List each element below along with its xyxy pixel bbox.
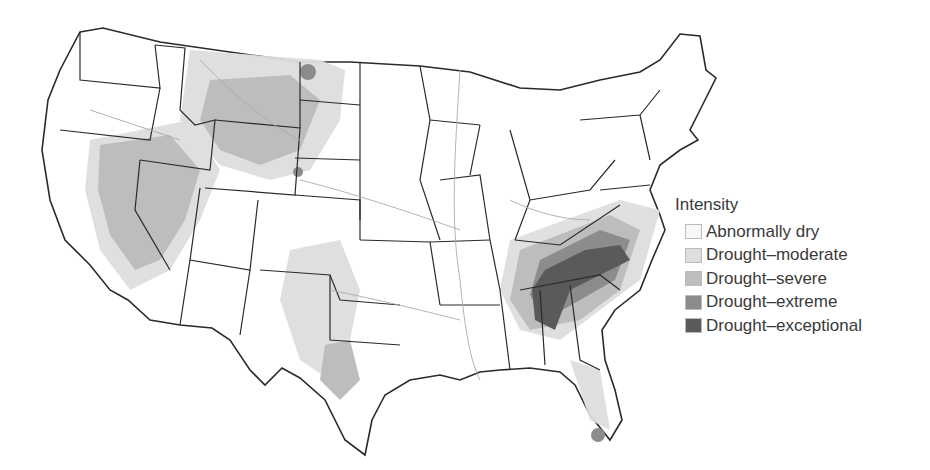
legend-item-drought-exceptional: Drought–exceptional [685,314,862,338]
legend-item-drought-moderate: Drought–moderate [685,244,862,268]
swatch-drought-exceptional [685,318,702,333]
legend-label: Drought–exceptional [706,316,862,336]
swatch-drought-severe [685,271,702,286]
legend-item-drought-severe: Drought–severe [685,267,862,291]
legend: Intensity Abnormally dry Drought–moderat… [675,195,862,338]
legend-label: Drought–extreme [706,292,837,312]
swatch-drought-moderate [685,248,702,263]
legend-label: Drought–severe [706,269,827,289]
legend-label: Abnormally dry [706,222,819,242]
legend-label: Drought–moderate [706,245,848,265]
legend-item-abnormally-dry: Abnormally dry [685,220,862,244]
legend-item-drought-extreme: Drought–extreme [685,291,862,315]
legend-title: Intensity [675,195,862,215]
swatch-drought-extreme [685,295,702,310]
swatch-abnormally-dry [685,224,702,239]
